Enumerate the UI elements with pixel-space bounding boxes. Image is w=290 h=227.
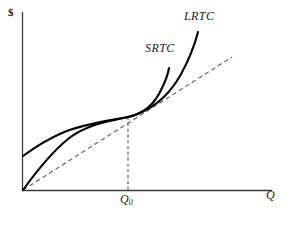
- x-axis-label: Q: [266, 189, 275, 201]
- y-axis-label: $: [8, 7, 14, 18]
- lrtc-curve-label: LRTC: [184, 10, 214, 22]
- x-axis-tick-q0: Q0: [120, 193, 133, 207]
- q0-base: Q: [120, 192, 129, 206]
- srtc-curve: [23, 68, 169, 156]
- q0-subscript: 0: [129, 198, 133, 207]
- cost-curves-figure: $ Q Q0 LRTC SRTC: [0, 0, 290, 227]
- srtc-curve-label: SRTC: [145, 42, 175, 54]
- lrtc-curve: [23, 32, 198, 190]
- chart-plot-area: [0, 0, 290, 227]
